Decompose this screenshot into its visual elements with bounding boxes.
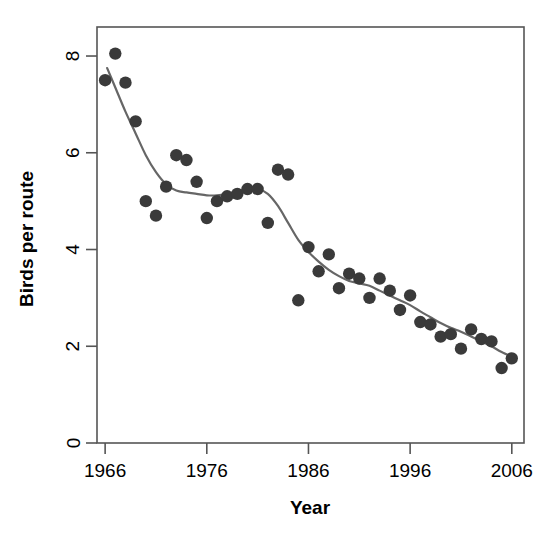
data-point bbox=[424, 318, 436, 330]
data-point bbox=[201, 212, 213, 224]
data-point bbox=[150, 209, 162, 221]
data-point bbox=[129, 115, 141, 127]
data-point bbox=[506, 352, 518, 364]
plot-frame bbox=[97, 27, 524, 443]
data-points bbox=[99, 47, 518, 374]
x-tick-label: 1996 bbox=[389, 460, 431, 481]
data-point bbox=[455, 342, 467, 354]
x-tick-label: 1986 bbox=[287, 460, 329, 481]
trend-line bbox=[107, 68, 516, 358]
y-tick-label: 2 bbox=[63, 341, 84, 352]
data-point bbox=[363, 292, 375, 304]
data-point bbox=[282, 168, 294, 180]
x-axis-title: Year bbox=[290, 497, 331, 518]
data-point bbox=[312, 265, 324, 277]
data-point bbox=[262, 217, 274, 229]
data-point bbox=[373, 272, 385, 284]
x-tick-label: 1966 bbox=[84, 460, 126, 481]
data-point bbox=[404, 289, 416, 301]
data-point bbox=[160, 180, 172, 192]
data-point bbox=[119, 76, 131, 88]
chart-container: 19661976198619962006 02468 Year Birds pe… bbox=[0, 0, 547, 538]
data-point bbox=[333, 282, 345, 294]
data-point bbox=[353, 272, 365, 284]
data-point bbox=[384, 284, 396, 296]
x-tick-label: 1976 bbox=[186, 460, 228, 481]
y-tick-label: 6 bbox=[63, 147, 84, 158]
data-point bbox=[251, 183, 263, 195]
data-point bbox=[180, 154, 192, 166]
data-point bbox=[140, 195, 152, 207]
data-point bbox=[109, 47, 121, 59]
data-point bbox=[485, 335, 497, 347]
x-axis-tick-labels: 19661976198619962006 bbox=[84, 460, 533, 481]
data-point bbox=[302, 241, 314, 253]
data-point bbox=[323, 248, 335, 260]
data-point bbox=[445, 328, 457, 340]
data-point bbox=[495, 362, 507, 374]
y-tick-label: 0 bbox=[63, 438, 84, 449]
data-point bbox=[292, 294, 304, 306]
data-point bbox=[394, 304, 406, 316]
data-point bbox=[99, 74, 111, 86]
y-axis-tick-labels: 02468 bbox=[63, 51, 84, 449]
data-point bbox=[465, 323, 477, 335]
y-tick-label: 4 bbox=[63, 244, 84, 255]
x-axis-ticks bbox=[105, 443, 512, 454]
scatter-plot-svg: 19661976198619962006 02468 Year Birds pe… bbox=[0, 0, 547, 538]
y-axis-title: Birds per route bbox=[16, 171, 37, 307]
y-tick-label: 8 bbox=[63, 51, 84, 62]
data-point bbox=[190, 176, 202, 188]
x-tick-label: 2006 bbox=[491, 460, 533, 481]
y-axis-ticks bbox=[86, 56, 97, 443]
